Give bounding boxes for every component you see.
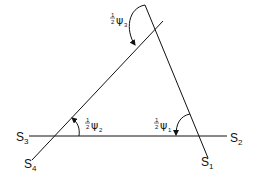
angle-label-psi1: 1 2 ψ 1 xyxy=(154,117,172,133)
svg-text:2: 2 xyxy=(86,124,90,130)
svg-text:3: 3 xyxy=(124,22,128,28)
svg-text:2: 2 xyxy=(111,19,115,25)
angle-label-psi3: 1 2 ψ 3 xyxy=(110,12,128,28)
triangle-diagram: S3 S2 S4 S1 1 2 ψ 3 1 2 ψ 2 1 2 ψ 1 xyxy=(0,0,256,184)
angle-arc-psi2 xyxy=(72,118,79,136)
svg-text:ψ: ψ xyxy=(91,119,98,132)
svg-text:2: 2 xyxy=(99,127,103,133)
label-s1: S1 xyxy=(201,155,214,171)
angle-arc-psi1 xyxy=(176,114,190,135)
label-s4: S4 xyxy=(24,157,37,173)
svg-text:1: 1 xyxy=(168,127,172,133)
line-s4 xyxy=(32,21,163,160)
label-s2: S2 xyxy=(230,131,243,147)
svg-text:2: 2 xyxy=(155,124,159,130)
angle-arc-psi3 xyxy=(129,5,145,45)
svg-text:1: 1 xyxy=(155,117,159,123)
angle-label-psi2: 1 2 ψ 2 xyxy=(85,117,103,133)
svg-text:ψ: ψ xyxy=(116,14,123,27)
line-s1 xyxy=(145,5,208,158)
svg-text:1: 1 xyxy=(86,117,90,123)
svg-text:1: 1 xyxy=(111,12,115,18)
label-s3: S3 xyxy=(16,130,29,146)
svg-text:ψ: ψ xyxy=(160,119,167,132)
